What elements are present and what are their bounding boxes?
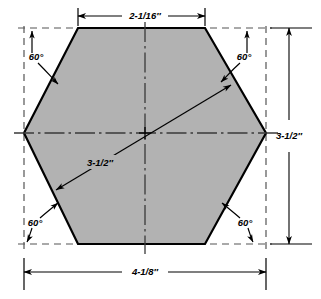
dim-label-across-corners-bottom: 4-1/8″ bbox=[131, 266, 159, 277]
hexagon-drawing-svg: 2-1/16″ 4-1/8″ 3-1/2″ 3-1/2″ bbox=[0, 0, 321, 299]
angle-label-bottom-left: 60° bbox=[28, 217, 43, 228]
angle-callout-bottom-left: 60° bbox=[27, 203, 58, 242]
dim-label-diagonal-across-flats: 3-1/2″ bbox=[87, 157, 114, 168]
technical-drawing-canvas: 2-1/16″ 4-1/8″ 3-1/2″ 3-1/2″ bbox=[0, 0, 321, 299]
dim-label-height-right: 3-1/2″ bbox=[276, 130, 303, 141]
angle-leader-bottom-right-upper bbox=[222, 203, 240, 218]
dimension-height-right: 3-1/2″ bbox=[270, 28, 312, 244]
dimension-across-corners-bottom: 4-1/8″ bbox=[24, 258, 266, 290]
angle-callout-bottom-right: 60° bbox=[222, 203, 253, 242]
angle-leader-bottom-left-lower bbox=[27, 228, 32, 242]
angle-leader-bottom-right-lower bbox=[248, 228, 253, 242]
angle-label-top-left: 60° bbox=[29, 51, 44, 62]
angle-label-bottom-right: 60° bbox=[238, 217, 253, 228]
angle-label-top-right: 60° bbox=[237, 51, 252, 62]
dim-label-across-flats-top: 2-1/16″ bbox=[128, 10, 161, 21]
angle-leader-bottom-left-upper bbox=[40, 203, 58, 218]
dimension-across-flats-top: 2-1/16″ bbox=[78, 8, 205, 26]
